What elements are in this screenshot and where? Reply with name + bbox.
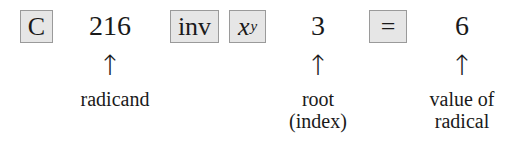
result-label: value of radical [430,88,495,132]
equals-key[interactable]: = [369,10,407,43]
equals-key-label: = [381,14,396,40]
clear-key[interactable]: C [20,10,53,43]
radicand-label-text: radicand [81,88,150,110]
root-arrow-up-icon: ↑ [306,52,329,80]
result-label-line2: radical [430,110,495,132]
result-label-line1: value of [430,88,495,110]
power-key-base: x [238,14,250,40]
result-arrow-up-icon: ↑ [450,52,473,80]
radicand-arrow-up-icon: ↑ [98,52,121,80]
power-key[interactable]: xy [229,10,266,43]
radicand-value: 216 [89,9,131,43]
root-label: root (index) [289,88,347,132]
power-key-exponent: y [250,19,257,34]
inverse-key[interactable]: inv [170,10,219,43]
result-value: 6 [455,9,469,43]
root-label-line1: root [289,88,347,110]
clear-key-label: C [28,14,45,40]
inverse-key-label: inv [178,14,211,40]
root-label-line2: (index) [289,110,347,132]
root-value: 3 [311,9,325,43]
radicand-label: radicand [81,88,150,110]
